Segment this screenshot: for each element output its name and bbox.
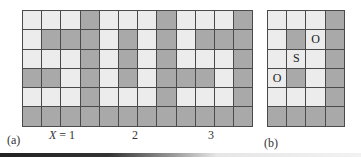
panel-a-cell-r4-c6 (119, 69, 137, 87)
panel-a-cell-r3-c7 (138, 50, 156, 68)
panel-b-cell-r4-c4 (326, 69, 344, 87)
panel-b-cell-r5-c2 (287, 88, 305, 106)
panel-a-cell-r3-c6 (119, 50, 137, 68)
panel-a-cell-r5-c8 (157, 88, 175, 106)
panel-a-cell-r4-c9 (177, 69, 195, 87)
panel-b-cell-r1-c3 (306, 11, 324, 29)
panel-a-cell-r3-c2 (42, 50, 60, 68)
panel-b-cell-r1-c1 (268, 11, 286, 29)
panel-a-cell-r6-c7 (138, 107, 156, 125)
panel-a-cell-r3-c10 (196, 50, 214, 68)
x-axis-label-1: X = 1 (49, 128, 75, 143)
panel-b-cell-r5-c1 (268, 88, 286, 106)
panel-b-cell-r1-c2 (287, 11, 305, 29)
panel-b-cell-r6-c1 (268, 107, 286, 125)
panel-a-cell-r2-c3 (61, 30, 79, 48)
panel-b-cell-r5-c3 (306, 88, 324, 106)
panel-b-cell-r6-c2 (287, 107, 305, 125)
panel-a-cell-r6-c5 (100, 107, 118, 125)
panel-a-cell-r2-c2 (42, 30, 60, 48)
panel-b-cell-r3-c1 (268, 50, 286, 68)
panel-a-cell-r2-c6 (119, 30, 137, 48)
panel-a-cell-r5-c4 (81, 88, 99, 106)
panel-a-cell-r1-c11 (215, 11, 233, 29)
panel-a-cell-r1-c8 (157, 11, 175, 29)
panel-b-marker-o: O (311, 32, 320, 47)
panel-a-cell-r6-c2 (42, 107, 60, 125)
panel-a-cell-r5-c11 (215, 88, 233, 106)
panel-a-cell-r5-c10 (196, 88, 214, 106)
panel-b-cell-r2-c4 (326, 30, 344, 48)
panel-a-cell-r3-c4 (81, 50, 99, 68)
x-variable: X (49, 128, 56, 142)
panel-a-cell-r4-c1 (23, 69, 41, 87)
panel-a-cell-r3-c9 (177, 50, 195, 68)
panel-a-cell-r4-c10 (196, 69, 214, 87)
panel-a-cell-r6-c12 (234, 107, 252, 125)
panel-a-cell-r6-c8 (157, 107, 175, 125)
panel-a-cell-r5-c2 (42, 88, 60, 106)
panel-b-cell-r6-c3 (306, 107, 324, 125)
panel-a-cell-r5-c3 (61, 88, 79, 106)
panel-b-cell-r3-c4 (326, 50, 344, 68)
panel-a-cell-r5-c9 (177, 88, 195, 106)
panel-a-cell-r2-c4 (81, 30, 99, 48)
panel-b-grid: OSO (267, 10, 345, 127)
panel-a-cell-r6-c9 (177, 107, 195, 125)
panel-a-cell-r2-c11 (215, 30, 233, 48)
x-tick-1: = 1 (59, 128, 75, 142)
panel-a-cell-r1-c12 (234, 11, 252, 29)
panel-b-cell-r2-c2 (287, 30, 305, 48)
panel-b-marker-o: O (273, 71, 282, 86)
panel-a-cell-r3-c11 (215, 50, 233, 68)
panel-a-cell-r2-c1 (23, 30, 41, 48)
panel-a-cell-r4-c5 (100, 69, 118, 87)
panel-a-cell-r4-c7 (138, 69, 156, 87)
panel-a-cell-r6-c4 (81, 107, 99, 125)
x-tick-3: 3 (208, 128, 214, 143)
panel-a-cell-r6-c3 (61, 107, 79, 125)
panel-b-cell-r2-c1 (268, 30, 286, 48)
panel-a-cell-r5-c7 (138, 88, 156, 106)
panel-b-cell-r3-c2: S (287, 50, 305, 68)
panel-a-cell-r6-c10 (196, 107, 214, 125)
panel-a-cell-r1-c9 (177, 11, 195, 29)
panel-b-cell-r3-c3 (306, 50, 324, 68)
panel-a-cell-r2-c12 (234, 30, 252, 48)
panel-b-cell-r4-c3 (306, 69, 324, 87)
panel-a-cell-r4-c2 (42, 69, 60, 87)
panel-a-cell-r2-c10 (196, 30, 214, 48)
panel-a-cell-r3-c1 (23, 50, 41, 68)
panel-a-cell-r6-c11 (215, 107, 233, 125)
panel-b-cell-r5-c4 (326, 88, 344, 106)
panel-a-cell-r2-c9 (177, 30, 195, 48)
panel-b-cell-r2-c3: O (306, 30, 324, 48)
panel-a-cell-r1-c1 (23, 11, 41, 29)
panel-a-cell-r4-c12 (234, 69, 252, 87)
panel-b-label: (b) (264, 136, 278, 151)
panel-a-cell-r6-c6 (119, 107, 137, 125)
bottom-divider-bar (0, 153, 361, 157)
panel-a-cell-r1-c5 (100, 11, 118, 29)
panel-a-cell-r3-c3 (61, 50, 79, 68)
panel-b-cell-r4-c1: O (268, 69, 286, 87)
panel-a-cell-r2-c5 (100, 30, 118, 48)
panel-a-cell-r1-c7 (138, 11, 156, 29)
x-tick-2: 2 (132, 128, 138, 143)
panel-b-cell-r6-c4 (326, 107, 344, 125)
panel-a-cell-r5-c5 (100, 88, 118, 106)
panel-a-cell-r4-c4 (81, 69, 99, 87)
panel-a-cell-r3-c5 (100, 50, 118, 68)
panel-a-cell-r6-c1 (23, 107, 41, 125)
panel-a-cell-r5-c6 (119, 88, 137, 106)
panel-a-cell-r4-c3 (61, 69, 79, 87)
panel-a-cell-r2-c7 (138, 30, 156, 48)
panel-a-cell-r4-c11 (215, 69, 233, 87)
panel-a-cell-r5-c1 (23, 88, 41, 106)
panel-a-grid (22, 10, 253, 127)
panel-b-marker-s: S (293, 51, 300, 66)
panel-a-cell-r4-c8 (157, 69, 175, 87)
panel-a-cell-r2-c8 (157, 30, 175, 48)
panel-b-cell-r4-c2 (287, 69, 305, 87)
panel-a-cell-r5-c12 (234, 88, 252, 106)
